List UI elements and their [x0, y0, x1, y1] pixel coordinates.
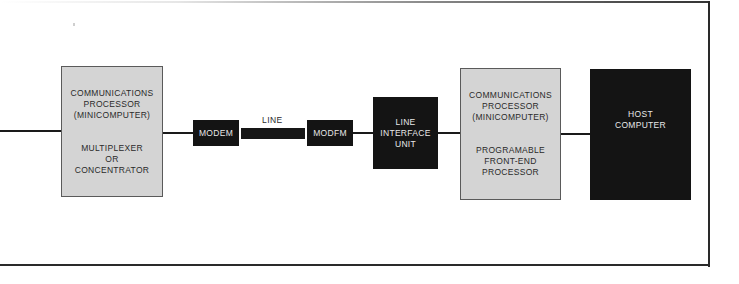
- print-speck: [73, 23, 75, 26]
- processor-title: COMMUNICATIONS PROCESSOR (MINICOMPUTER): [71, 88, 154, 121]
- line-interface-unit: LINE INTERFACE UNIT: [373, 97, 438, 169]
- line-label: LINE: [262, 115, 283, 125]
- liu-label: LINE INTERFACE UNIT: [380, 117, 430, 150]
- frame-bottom-border: [0, 264, 710, 266]
- wire-liu-to-frontend: [438, 132, 461, 134]
- modem-left: MODEM: [193, 120, 239, 146]
- communications-processor-multiplexer: COMMUNICATIONS PROCESSOR (MINICOMPUTER) …: [61, 66, 163, 197]
- transmission-line: [241, 128, 305, 139]
- wire-processor-to-modem: [163, 132, 194, 134]
- communications-processor-front-end: COMMUNICATIONS PROCESSOR (MINICOMPUTER) …: [460, 68, 561, 200]
- modem-label: MODFM: [313, 128, 347, 139]
- processor-role: PROGRAMABLE FRONT-END PROCESSOR: [476, 145, 545, 178]
- frame-top-border: [0, 1, 710, 3]
- modem-label: MODEM: [199, 128, 233, 139]
- wire-frontend-to-host: [561, 133, 591, 135]
- input-wire: [0, 130, 62, 132]
- host-computer: HOST COMPUTER: [590, 69, 691, 200]
- host-label: HOST COMPUTER: [615, 109, 666, 131]
- wire-modem-to-liu: [353, 132, 374, 134]
- processor-role: MULTIPLEXER OR CONCENTRATOR: [75, 143, 150, 176]
- modem-right: MODFM: [307, 120, 353, 146]
- frame-right-border: [708, 1, 710, 267]
- processor-title: COMMUNICATIONS PROCESSOR (MINICOMPUTER): [469, 90, 552, 123]
